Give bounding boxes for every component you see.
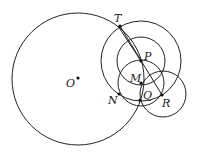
point-label-M: M (129, 72, 142, 85)
point-label-N: N (107, 94, 118, 107)
point-Q (138, 98, 141, 101)
point-P (139, 59, 142, 62)
point-N (117, 92, 120, 95)
geometry-diagram: OTPMQNR (0, 0, 197, 154)
point-label-O: O (66, 77, 75, 90)
point-O (76, 76, 79, 79)
point-label-P: P (143, 50, 152, 63)
point-label-Q: Q (143, 89, 152, 102)
point-label-R: R (161, 97, 170, 110)
segment-TP (118, 26, 141, 61)
diagram-svg: OTPMQNR (0, 0, 197, 154)
point-label-T: T (114, 12, 123, 25)
